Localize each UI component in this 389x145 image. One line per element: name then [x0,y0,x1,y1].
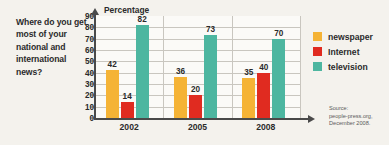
legend: newspaperInternettelevision [313,29,373,74]
legend-swatch-icon [313,62,322,71]
bar-internet-2005 [189,95,202,118]
bar-television-2002 [136,25,149,118]
bar-value-label: 20 [191,85,200,94]
bar-value-label: 40 [259,63,268,72]
bar-value-label: 36 [176,67,185,76]
gridline [95,27,300,28]
legend-swatch-icon [313,32,322,41]
x-axis-arrow-icon [308,115,315,123]
plot-area: 421482362073354070 [95,16,300,118]
gridline [95,50,300,51]
source-line-2: people-press.org, [329,113,373,121]
legend-item-newspaper[interactable]: newspaper [313,29,373,44]
bar-value-label: 14 [123,92,132,101]
legend-swatch-icon [313,47,322,56]
x-axis-tick-label-2002: 2002 [120,122,139,132]
source-line-1: Source: [329,105,373,113]
y-axis-arrow-icon [91,8,99,15]
legend-item-television[interactable]: television [313,59,373,74]
legend-label: television [328,62,368,72]
bar-value-label: 70 [274,29,283,38]
legend-item-internet[interactable]: Internet [313,44,373,59]
x-axis-tick-label-2005: 2005 [188,122,207,132]
legend-label: newspaper [328,32,373,42]
chart-figure: Where do you get most of your national a… [0,0,389,145]
bar-newspaper-2002 [106,70,119,118]
legend-label: Internet [328,47,360,57]
gridline [95,61,300,62]
x-axis-tick-label-2008: 2008 [256,122,275,132]
x-axis-line [94,118,310,120]
y-axis-line [94,14,96,120]
bar-newspaper-2008 [242,78,255,118]
bar-internet-2002 [121,102,134,118]
source-note: Source: people-press.org, December 2008. [329,105,373,128]
bar-value-label: 82 [138,15,147,24]
bar-value-label: 42 [108,60,117,69]
bar-value-label: 35 [244,68,253,77]
group-separator [163,16,164,118]
gridline [95,39,300,40]
bar-internet-2008 [257,73,270,118]
bar-television-2005 [204,35,217,118]
group-separator [300,16,301,118]
group-separator [232,16,233,118]
bar-newspaper-2005 [174,77,187,118]
bar-television-2008 [272,39,285,118]
y-axis-title: Percentage [104,5,149,15]
source-line-3: December 2008. [329,120,373,128]
bar-value-label: 73 [206,25,215,34]
